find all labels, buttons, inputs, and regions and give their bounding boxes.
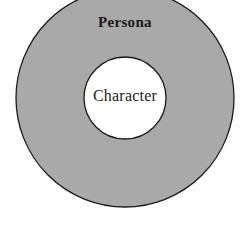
persona-character-diagram: Persona Character [0,0,248,236]
inner-label-character: Character [93,87,157,104]
outer-label-persona: Persona [98,14,152,30]
